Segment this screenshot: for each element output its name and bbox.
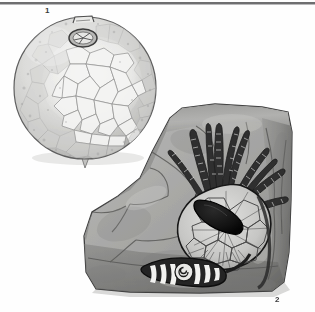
plate-artwork [0, 0, 315, 312]
figure-1-spherical-fossil [10, 16, 156, 168]
figure-1-label: 1 [45, 6, 49, 15]
stem-coil [175, 263, 193, 281]
apical-loop [73, 16, 94, 23]
fossil-plate: 1 2 [0, 0, 315, 312]
apical-plate [69, 29, 97, 47]
figure-2-label: 2 [275, 295, 279, 304]
